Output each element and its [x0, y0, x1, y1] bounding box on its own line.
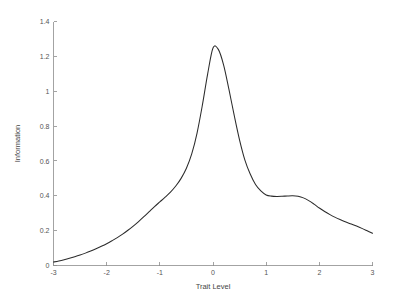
axis-frame [54, 22, 373, 266]
y-tick-label: 1.4 [40, 18, 50, 25]
x-tick-label: 0 [211, 269, 215, 276]
figure-container: -3-2-10123 00.20.40.60.811.21.4 Trait Le… [0, 0, 393, 301]
x-tick-label: 2 [317, 269, 321, 276]
x-tick-label: -2 [104, 269, 110, 276]
chart-canvas: -3-2-10123 00.20.40.60.811.21.4 Trait Le… [0, 0, 393, 301]
y-axis-tick-labels: 00.20.40.60.811.21.4 [40, 18, 50, 269]
y-axis-title: Information [13, 125, 22, 163]
y-tick-label: 0.6 [40, 158, 50, 165]
x-tick-label: -1 [157, 269, 163, 276]
y-tick-label: 0 [46, 262, 50, 269]
x-axis-tick-labels: -3-2-10123 [50, 269, 374, 276]
x-tick-label: 1 [264, 269, 268, 276]
y-tick-label: 0.2 [40, 227, 50, 234]
y-tick-label: 1.2 [40, 53, 50, 60]
x-tick-label: 3 [371, 269, 375, 276]
y-tick-label: 0.4 [40, 192, 50, 199]
y-tick-label: 0.8 [40, 123, 50, 130]
y-tick-label: 1 [46, 88, 50, 95]
x-tick-label: -3 [50, 269, 56, 276]
x-axis-ticks [54, 262, 373, 266]
information-curve [54, 46, 373, 262]
x-axis-title: Trait Level [196, 282, 231, 291]
y-axis-ticks [54, 22, 58, 266]
